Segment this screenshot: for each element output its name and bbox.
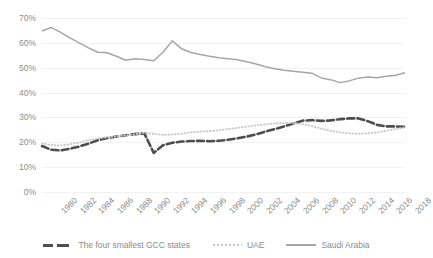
plot-area [42,18,405,192]
x-axis-tick-label: 1992 [171,196,190,215]
series-line [42,118,405,153]
x-axis-tick-label: 2010 [339,196,358,215]
y-axis-tick-label: 70% [0,14,36,23]
y-axis-tick-label: 30% [0,113,36,122]
y-axis-tick-label: 20% [0,138,36,147]
x-axis-tick-label: 1980 [60,196,79,215]
x-axis-tick-label: 2002 [264,196,283,215]
y-axis-tick-label: 10% [0,163,36,172]
x-axis-tick-label: 2018 [413,196,432,215]
legend-label: Saudi Arabia [321,240,369,250]
x-axis-tick-label: 1998 [227,196,246,215]
y-axis: 70%60%50%40%30%20%10%0% [0,18,38,192]
legend-label: The four smallest GCC states [78,240,189,250]
y-axis-tick-label: 0% [0,188,36,197]
legend-item[interactable]: UAE [212,240,264,250]
x-axis-tick-label: 2012 [357,196,376,215]
series-line [42,27,405,82]
solid-line-marker [286,244,316,247]
gridline [42,192,405,193]
x-axis-tick-label: 1984 [97,196,116,215]
dashed-line-marker [43,244,73,247]
x-axis-tick-label: 1994 [190,196,209,215]
x-axis-tick-label: 2006 [302,196,321,215]
chart-legend: The four smallest GCC statesUAESaudi Ara… [0,238,413,252]
x-axis-tick-label: 2008 [320,196,339,215]
x-axis-tick-label: 1986 [115,196,134,215]
legend-item[interactable]: The four smallest GCC states [43,240,189,250]
x-axis-tick-label: 1982 [78,196,97,215]
x-axis: 1980198219841986198819901992199419961998… [42,196,405,236]
x-axis-tick-label: 1990 [153,196,172,215]
y-axis-tick-label: 50% [0,64,36,73]
series-lines [42,18,405,192]
legend-label: UAE [247,240,264,250]
x-axis-tick-label: 1988 [134,196,153,215]
x-axis-tick-label: 2004 [283,196,302,215]
dotted-line-marker [212,243,242,247]
legend-item[interactable]: Saudi Arabia [286,240,369,250]
y-axis-tick-label: 60% [0,39,36,48]
y-axis-tick-label: 40% [0,89,36,98]
x-axis-tick-label: 1996 [208,196,227,215]
x-axis-tick-label: 2000 [246,196,265,215]
x-axis-tick-label: 2016 [395,196,414,215]
x-axis-tick-label: 2014 [376,196,395,215]
